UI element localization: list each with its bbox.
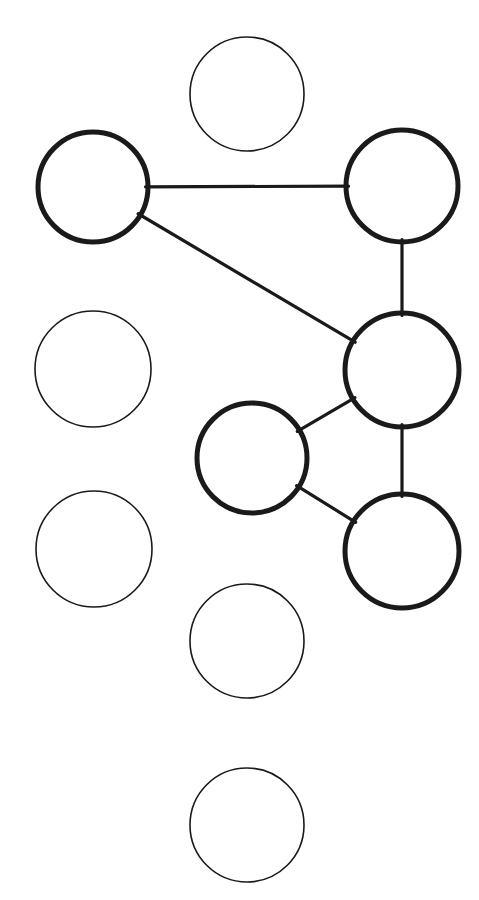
node-top-center-circle[interactable] bbox=[190, 37, 304, 151]
edge-mid-right-to-center[interactable] bbox=[297, 398, 355, 432]
node-upper-left-circle[interactable] bbox=[38, 132, 148, 242]
graph-canvas bbox=[0, 0, 479, 900]
node-mid-right-circle[interactable] bbox=[345, 313, 459, 427]
node-mid-right[interactable] bbox=[345, 313, 459, 427]
edge-center-to-lower-right[interactable] bbox=[297, 486, 356, 523]
node-upper-left[interactable] bbox=[38, 132, 148, 242]
node-lower-right[interactable] bbox=[345, 494, 459, 608]
node-mid-left[interactable] bbox=[35, 311, 151, 427]
node-lower-right-circle[interactable] bbox=[345, 494, 459, 608]
node-lower-center[interactable] bbox=[190, 584, 304, 698]
node-lower-center-circle[interactable] bbox=[190, 584, 304, 698]
node-upper-right[interactable] bbox=[346, 130, 458, 242]
node-layer bbox=[35, 37, 459, 882]
edge-upper-left-to-upper-right[interactable] bbox=[146, 186, 349, 187]
edge-layer bbox=[138, 186, 402, 522]
node-lower-left-circle[interactable] bbox=[36, 491, 152, 607]
node-top-center[interactable] bbox=[190, 37, 304, 151]
node-center[interactable] bbox=[197, 403, 307, 513]
graph-diagram bbox=[0, 0, 479, 900]
node-lower-left[interactable] bbox=[36, 491, 152, 607]
node-bottom-center-circle[interactable] bbox=[190, 768, 304, 882]
edge-upper-left-to-mid-right[interactable] bbox=[138, 214, 355, 342]
node-upper-right-circle[interactable] bbox=[346, 130, 458, 242]
node-bottom-center[interactable] bbox=[190, 768, 304, 882]
node-center-circle[interactable] bbox=[197, 403, 307, 513]
node-mid-left-circle[interactable] bbox=[35, 311, 151, 427]
